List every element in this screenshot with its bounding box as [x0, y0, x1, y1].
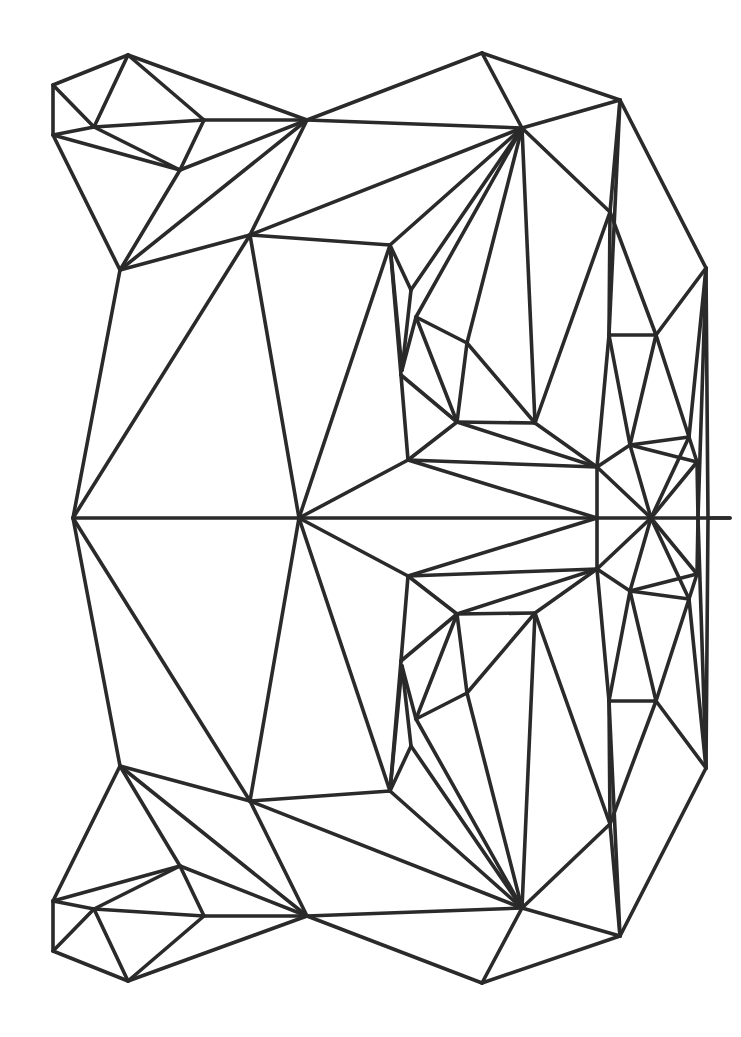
mesh-edge-bottom [697, 518, 698, 574]
mesh-edge-top [697, 462, 698, 518]
mesh-edge-top [457, 422, 535, 423]
polygon-mesh-drawing [0, 0, 741, 1037]
mesh-edge-bottom [457, 613, 535, 614]
